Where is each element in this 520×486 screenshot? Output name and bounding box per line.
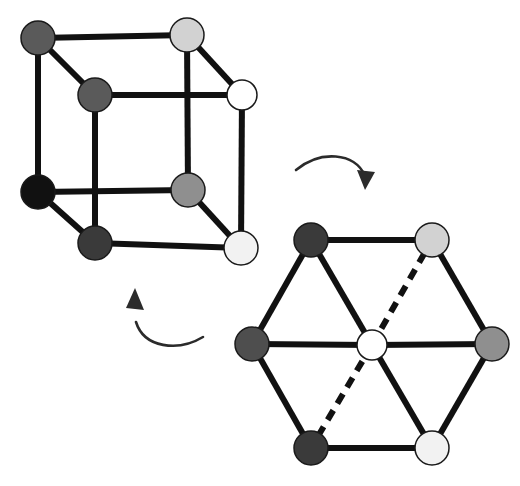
- vertex-bottom-left: [294, 431, 328, 465]
- vertex-center-open: [357, 330, 387, 360]
- vertex-back-top-right: [170, 18, 204, 52]
- vertex-top-right: [415, 223, 449, 257]
- edge-spoke-right: [372, 344, 492, 345]
- edge-spoke-left: [252, 344, 372, 345]
- vertex-front-top-right-open: [227, 80, 257, 110]
- edge-back-bottom: [38, 190, 188, 192]
- vertex-top-left: [294, 223, 328, 257]
- vertex-front-bottom-right: [224, 231, 258, 265]
- edge-back-top: [38, 35, 187, 38]
- figure-root: [0, 0, 520, 486]
- edge-back-right: [187, 35, 188, 190]
- figure-canvas: [0, 0, 520, 486]
- vertex-front-bottom-left: [78, 226, 112, 260]
- vertex-back-bottom-right: [171, 173, 205, 207]
- vertex-bottom-right: [415, 431, 449, 465]
- vertex-back-top-left: [21, 21, 55, 55]
- edge-front-right: [241, 95, 242, 248]
- vertex-left: [235, 327, 269, 361]
- vertex-front-top-left: [78, 78, 112, 112]
- vertex-back-bottom-left: [21, 175, 55, 209]
- vertex-right: [475, 327, 509, 361]
